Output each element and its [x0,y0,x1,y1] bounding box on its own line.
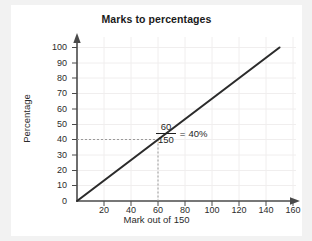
y-tick-label-20: 20 [35,165,67,175]
chart-container: Marks to percentages [11,5,302,236]
y-axis-title: Percentage [21,69,32,169]
fraction-numerator: 60 [159,122,174,132]
y-axis [72,33,81,201]
annotation-worked-example: 60 150 = 40% [156,122,207,146]
y-tick-label-60: 60 [35,104,67,114]
origin-label: 0 [35,196,67,206]
y-tick-label-100: 100 [35,42,67,52]
chart-card: Marks to percentages [11,5,302,236]
y-tick-label-10: 10 [35,180,67,190]
annotation-result: 40% [188,128,207,139]
fraction-denominator: 150 [156,135,176,145]
y-tick-label-80: 80 [35,73,67,83]
y-tick-label-40: 40 [35,134,67,144]
y-tick-label-70: 70 [35,88,67,98]
y-tick-label-50: 50 [35,119,67,129]
x-axis-title: Mark out of 150 [11,214,302,225]
fraction-60-over-150: 60 150 [156,122,176,146]
y-tick-label-30: 30 [35,150,67,160]
equals-sign: = [180,128,186,139]
y-tick-label-90: 90 [35,58,67,68]
